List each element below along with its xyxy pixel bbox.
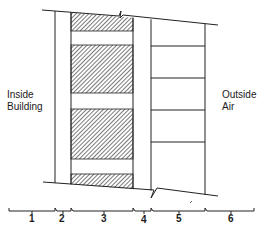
layer-4-label: 4	[141, 214, 147, 225]
layer-5-label: 5	[176, 213, 182, 224]
dimension-brace	[9, 208, 254, 214]
outside-air-label: Outside Air	[222, 89, 256, 113]
layer-3-label: 3	[101, 213, 107, 224]
layer-2-label: 2	[59, 213, 65, 224]
wall-section-diagram	[0, 0, 264, 230]
layer-3-blocks	[71, 0, 133, 204]
layer-6-label: 6	[228, 213, 234, 224]
inside-building-label: Inside Building	[7, 89, 43, 113]
layer-1-label: 1	[29, 213, 35, 224]
layer-5-courses	[151, 10, 205, 200]
